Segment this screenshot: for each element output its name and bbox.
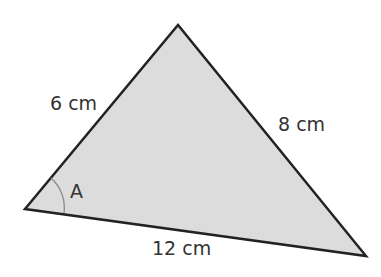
angle-label: A bbox=[70, 180, 83, 202]
side-label-right: 8 cm bbox=[278, 113, 325, 135]
triangle bbox=[25, 25, 366, 256]
triangle-diagram: A 6 cm 8 cm 12 cm bbox=[0, 0, 381, 277]
side-label-left: 6 cm bbox=[50, 92, 97, 114]
side-label-bottom: 12 cm bbox=[152, 237, 211, 259]
